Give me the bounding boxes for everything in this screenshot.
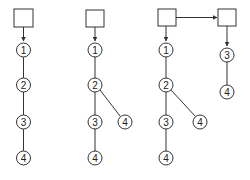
node-label: 1 [92, 45, 98, 56]
panel-2: 1 2 3 4 4 [86, 10, 132, 165]
box-a [14, 9, 33, 27]
node-4: 4 [88, 151, 102, 165]
node-3: 3 [159, 115, 173, 129]
node-label: 1 [21, 45, 27, 56]
node-label: 4 [197, 117, 203, 128]
node-2: 2 [88, 78, 102, 92]
node-4: 4 [17, 151, 31, 165]
node-label: 4 [92, 153, 98, 164]
node-2: 2 [17, 78, 31, 92]
box-c [158, 9, 176, 26]
node-4-right: 4 [220, 85, 234, 99]
node-label: 3 [224, 50, 230, 61]
box-d [218, 9, 236, 26]
node-3: 3 [17, 115, 31, 129]
node-label: 2 [92, 80, 98, 91]
panel-1: 1 2 3 4 [14, 9, 33, 165]
node-2: 2 [159, 78, 173, 92]
node-4-branch: 4 [118, 115, 132, 129]
node-label: 1 [163, 45, 169, 56]
node-label: 4 [224, 87, 230, 98]
node-label: 2 [163, 80, 169, 91]
node-label: 4 [122, 117, 128, 128]
node-1: 1 [88, 43, 102, 57]
node-4-branch: 4 [193, 115, 207, 129]
panel-3: 1 2 3 4 4 3 4 [158, 9, 236, 165]
node-label: 4 [163, 153, 169, 164]
node-label: 3 [163, 117, 169, 128]
node-4: 4 [159, 151, 173, 165]
edge-2-4-branch [171, 90, 195, 116]
diagram-canvas: 1 2 3 4 1 2 3 4 4 1 2 3 4 4 3 4 [0, 0, 250, 180]
node-label: 3 [92, 117, 98, 128]
node-label: 3 [21, 117, 27, 128]
box-b [86, 10, 104, 27]
node-label: 4 [21, 153, 27, 164]
node-1: 1 [17, 43, 31, 57]
node-label: 2 [21, 80, 27, 91]
edge-2-4-branch [100, 90, 120, 116]
node-3-right: 3 [220, 48, 234, 62]
node-3: 3 [88, 115, 102, 129]
node-1: 1 [159, 43, 173, 57]
